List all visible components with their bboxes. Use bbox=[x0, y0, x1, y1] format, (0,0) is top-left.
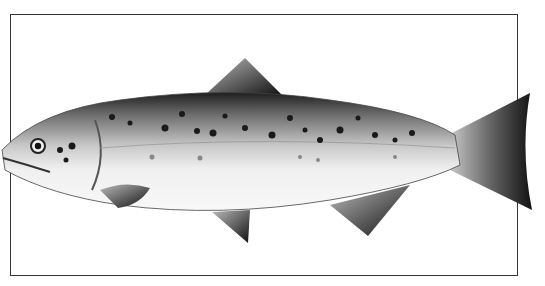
salmon-illustration bbox=[0, 0, 545, 286]
dorsal-fin bbox=[205, 58, 282, 95]
pelvic-fin bbox=[212, 210, 250, 243]
caudal-fin bbox=[448, 93, 532, 210]
